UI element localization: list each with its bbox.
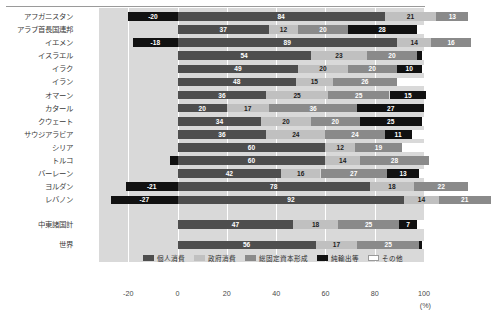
stacked-bar: -20842113 — [79, 12, 424, 21]
legend-swatch-icon — [143, 255, 154, 261]
stacked-bar: 6012190 — [79, 143, 424, 152]
stacked-bar: 20173627 — [79, 104, 424, 113]
segment-other — [419, 169, 424, 178]
legend-label: 総固定資本形成 — [259, 253, 308, 263]
x-tick-label: 80 — [371, 289, 379, 298]
top-divider — [6, 6, 425, 7]
table-row: 542320 — [79, 49, 424, 62]
segment-net-exports: -27 — [111, 196, 178, 205]
segment-net-exports: -21 — [126, 182, 178, 191]
segment-other — [468, 182, 480, 191]
segment-personal-consumption: 47 — [178, 220, 294, 229]
segment-gross-capital-formation: 20 — [367, 51, 416, 60]
segment-personal-consumption: 56 — [178, 241, 316, 250]
segment-other — [429, 156, 431, 165]
segment-net-exports: 25 — [360, 117, 422, 126]
segment-other — [468, 12, 478, 21]
segment-government-consumption: 17 — [227, 104, 269, 113]
legend-label: 政府消費 — [208, 253, 236, 263]
category-label: イラン — [0, 75, 78, 88]
table-row: -27921421 — [79, 193, 424, 206]
segment-government-consumption: 16 — [281, 169, 320, 178]
x-tick-label: 40 — [272, 289, 280, 298]
segment-gross-capital-formation: 27 — [321, 169, 388, 178]
row-spacer — [79, 231, 424, 238]
category-label: ヨルダン — [0, 180, 78, 193]
category-label: 中東諸国計 — [0, 218, 78, 231]
segment-gross-capital-formation: 25 — [328, 91, 390, 100]
segment-gross-capital-formation: 22 — [414, 182, 468, 191]
segment-personal-consumption: 37 — [178, 25, 269, 34]
table-row: 20173627 — [79, 102, 424, 115]
segment-personal-consumption: 49 — [178, 65, 299, 74]
legend-label: その他 — [382, 253, 403, 263]
segment-net-exports: 10 — [397, 65, 422, 74]
category-label: イエメン — [0, 36, 78, 49]
bars-area: -2084211337122028-1889141654232049202010… — [79, 10, 424, 252]
table-row: -21781822 — [79, 180, 424, 193]
legend-item[interactable]: 総固定資本形成 — [245, 253, 308, 263]
segment-net-exports: 15 — [390, 91, 427, 100]
segment-personal-consumption: 78 — [178, 182, 370, 191]
segment-government-consumption: 20 — [298, 65, 347, 74]
x-tick-label: -20 — [123, 289, 133, 298]
category-label: 世界 — [0, 238, 78, 251]
segment-other — [422, 51, 424, 60]
segment-personal-consumption: 89 — [178, 38, 397, 47]
table-row: 49202010 — [79, 62, 424, 75]
table-row: 37122028 — [79, 23, 424, 36]
stacked-bar: 37122028 — [79, 25, 424, 34]
segment-personal-consumption: 60 — [178, 143, 326, 152]
segment-gross-capital-formation: 25 — [357, 241, 419, 250]
x-axis: -20020406080100 — [79, 289, 424, 301]
segment-net-exports: -18 — [133, 38, 177, 47]
legend-item[interactable]: 個人消費 — [143, 253, 185, 263]
stacked-bar: 34202025 — [79, 117, 424, 126]
table-row: 36252515 — [79, 89, 424, 102]
stacked-bar: -18891416 — [79, 38, 424, 47]
segment-other — [412, 130, 424, 139]
segment-other — [402, 143, 424, 152]
segment-other — [417, 25, 424, 34]
row-spacer — [79, 206, 424, 218]
segment-net-exports: -20 — [128, 12, 177, 21]
segment-gross-capital-formation: 16 — [431, 38, 470, 47]
category-label: トルコ — [0, 154, 78, 167]
segment-personal-consumption: 34 — [178, 117, 262, 126]
legend-swatch-icon — [317, 255, 328, 261]
x-axis-unit: (%) — [420, 301, 431, 310]
segment-government-consumption: 18 — [370, 182, 414, 191]
segment-gross-capital-formation: 20 — [298, 25, 347, 34]
segment-government-consumption: 20 — [261, 117, 310, 126]
segment-personal-consumption: 60 — [178, 156, 326, 165]
stacked-bar: 42162713 — [79, 169, 424, 178]
legend-item[interactable]: その他 — [368, 253, 403, 263]
segment-personal-consumption: 84 — [178, 12, 385, 21]
chart-legend: 個人消費政府消費総固定資本形成純輸出等その他 — [143, 253, 403, 263]
stacked-bar: 561725 — [79, 241, 424, 250]
category-label: アラブ首長国連邦 — [0, 23, 78, 36]
segment-personal-consumption: 92 — [178, 196, 405, 205]
segment-net-exports: 28 — [348, 25, 417, 34]
legend-item[interactable]: 政府消費 — [194, 253, 236, 263]
segment-gross-capital-formation: 25 — [338, 220, 400, 229]
segment-net-exports — [170, 156, 177, 165]
segment-other — [397, 78, 424, 87]
segment-government-consumption: 21 — [385, 12, 437, 21]
category-label: イラク — [0, 62, 78, 75]
stacked-bar: 601428 — [79, 156, 424, 165]
category-label: サウジアラビア — [0, 128, 78, 141]
segment-net-exports: 13 — [387, 169, 419, 178]
segment-gross-capital-formation: 26 — [333, 78, 397, 87]
stacked-bar: -27921421 — [79, 196, 424, 205]
legend-item[interactable]: 純輸出等 — [317, 253, 359, 263]
segment-personal-consumption: 48 — [178, 78, 296, 87]
legend-label: 純輸出等 — [331, 253, 359, 263]
segment-government-consumption: 14 — [325, 156, 360, 165]
segment-net-exports: 27 — [357, 104, 424, 113]
table-row: 4815260 — [79, 75, 424, 88]
category-label: シリア — [0, 141, 78, 154]
legend-swatch-icon — [245, 255, 256, 261]
segment-other — [417, 220, 424, 229]
